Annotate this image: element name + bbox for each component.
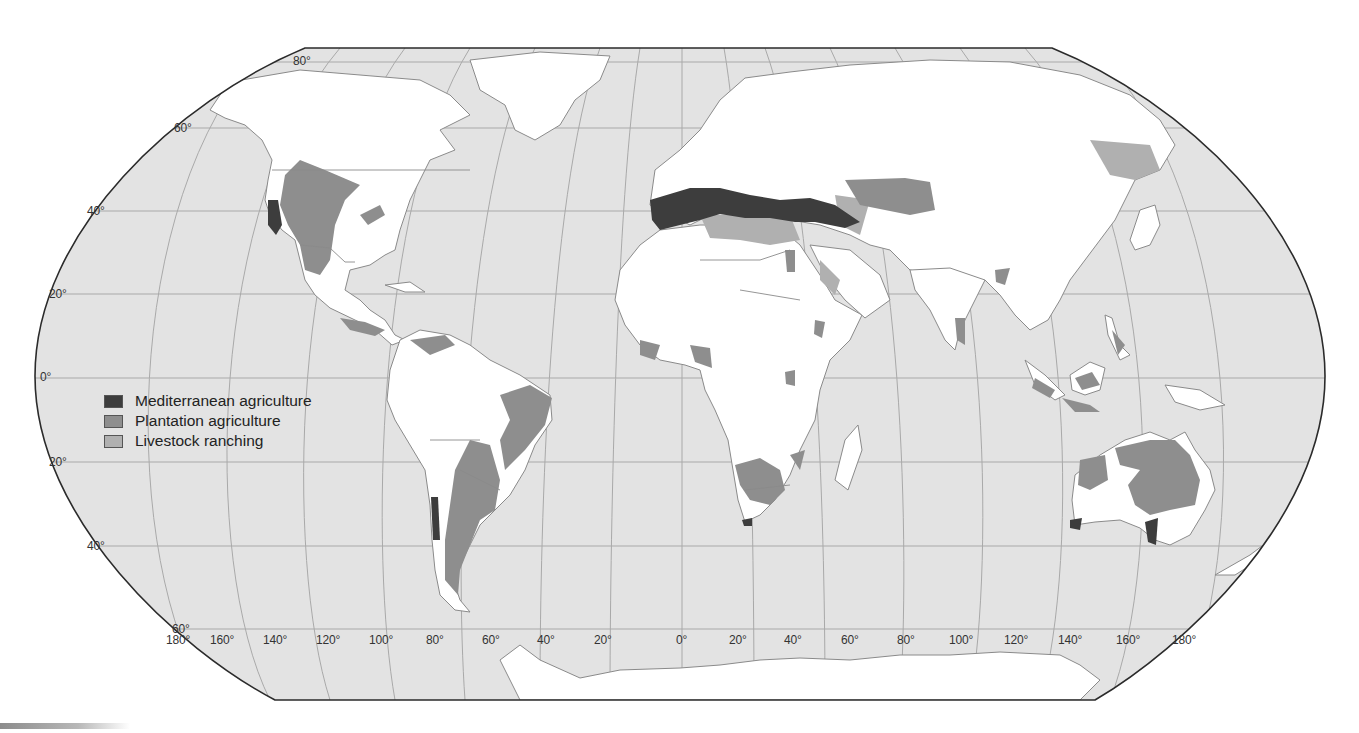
lon-label-100w: 100° xyxy=(369,633,393,647)
lon-label-120w: 120° xyxy=(316,633,340,647)
lon-label-100e: 100° xyxy=(949,633,973,647)
world-map xyxy=(0,0,1359,733)
lon-label-160e: 160° xyxy=(1116,633,1140,647)
lon-label-0: 0° xyxy=(676,633,687,647)
lon-label-180e: 180° xyxy=(1172,633,1196,647)
legend-item-mediterranean: Mediterranean agriculture xyxy=(104,391,312,411)
map-legend: Mediterranean agriculture Plantation agr… xyxy=(104,391,312,451)
lat-label-20s: 20° xyxy=(49,455,67,469)
lon-label-60w: 60° xyxy=(482,633,500,647)
lat-label-0: 0° xyxy=(40,370,51,384)
lon-label-20e: 20° xyxy=(729,633,747,647)
lon-label-180w: 180° xyxy=(166,633,190,647)
lon-label-40w: 40° xyxy=(537,633,555,647)
legend-label: Plantation agriculture xyxy=(135,412,281,430)
lat-label-80n: 80° xyxy=(293,54,311,68)
plantation-swatch-icon xyxy=(104,415,123,428)
legend-label: Mediterranean agriculture xyxy=(135,392,312,410)
decorative-gradient-bar xyxy=(0,723,130,729)
mediterranean-swatch-icon xyxy=(104,395,123,408)
lat-label-40s: 40° xyxy=(87,539,105,553)
legend-item-livestock: Livestock ranching xyxy=(104,431,312,451)
lat-label-40n: 40° xyxy=(87,204,105,218)
lat-label-60n: 60° xyxy=(174,121,192,135)
lon-label-60e: 60° xyxy=(841,633,859,647)
livestock-swatch-icon xyxy=(104,435,123,448)
lon-label-160w: 160° xyxy=(210,633,234,647)
lat-label-20n: 20° xyxy=(49,287,67,301)
lon-label-120e: 120° xyxy=(1004,633,1028,647)
legend-label: Livestock ranching xyxy=(135,432,263,450)
lon-label-80e: 80° xyxy=(897,633,915,647)
lon-label-140w: 140° xyxy=(263,633,287,647)
legend-item-plantation: Plantation agriculture xyxy=(104,411,312,431)
lon-label-20w: 20° xyxy=(594,633,612,647)
lon-label-140e: 140° xyxy=(1058,633,1082,647)
lon-label-40e: 40° xyxy=(784,633,802,647)
lon-label-80w: 80° xyxy=(426,633,444,647)
